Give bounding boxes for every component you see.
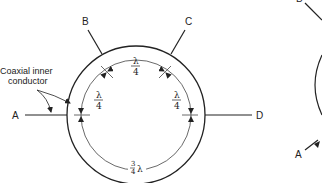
arrow-icon — [108, 67, 115, 71]
svg-text:4: 4 — [96, 101, 102, 111]
port-label-d: D — [256, 110, 263, 121]
partial-label-b: B — [296, 0, 303, 4]
hybrid-ring-diagram: A B C D Coaxial inner conductor λ 4 λ 4 … — [0, 0, 322, 183]
svg-text:λ: λ — [137, 164, 143, 174]
segment-label-ab: λ 4 — [94, 90, 103, 111]
annotation-line1: Coaxial inner — [0, 66, 53, 76]
leader-line-outer — [37, 90, 70, 103]
arrow-icon — [166, 73, 172, 79]
annotation-line2: conductor — [8, 76, 48, 86]
port-c-line — [171, 30, 185, 54]
port-label-b: B — [82, 16, 89, 27]
leader-line-inner — [37, 90, 51, 112]
svg-text:3: 3 — [131, 160, 135, 168]
svg-text:4: 4 — [133, 67, 139, 77]
partial-label-a: A — [295, 149, 302, 160]
segment-label-da: 3 4 λ — [128, 160, 146, 176]
svg-text:λ: λ — [174, 90, 180, 100]
svg-text:4: 4 — [174, 101, 180, 111]
arrow-icon — [100, 73, 106, 79]
arrow-icon — [157, 67, 164, 71]
port-label-c: C — [185, 16, 192, 27]
svg-text:λ: λ — [133, 56, 139, 66]
segment-label-bc: λ 4 — [131, 56, 140, 77]
segment-label-cd: λ 4 — [172, 90, 181, 111]
svg-text:λ: λ — [96, 90, 102, 100]
partial-figure: B A — [295, 0, 322, 160]
port-label-a: A — [12, 110, 19, 121]
port-b-line — [88, 30, 102, 54]
svg-text:4: 4 — [131, 168, 136, 176]
